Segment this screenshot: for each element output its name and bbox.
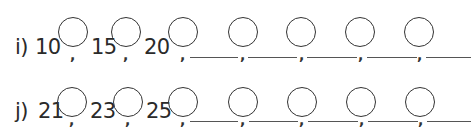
answer-circle[interactable] bbox=[58, 17, 88, 47]
row-label: j) bbox=[15, 101, 28, 122]
answer-blank[interactable] bbox=[249, 121, 298, 122]
comma: , bbox=[299, 113, 304, 127]
comma: , bbox=[358, 48, 363, 62]
sequence-row-i: i) 10 , 15 , 20 , , , , , bbox=[0, 0, 471, 64]
comma: , bbox=[69, 113, 74, 127]
given-number: 23 bbox=[90, 101, 116, 122]
comma: , bbox=[359, 113, 364, 127]
comma: , bbox=[418, 113, 423, 127]
answer-circle[interactable] bbox=[228, 17, 258, 47]
given-number: 20 bbox=[144, 37, 170, 58]
answer-circle[interactable] bbox=[111, 17, 141, 47]
comma: , bbox=[125, 113, 130, 127]
given-number: 10 bbox=[35, 37, 61, 58]
answer-blank[interactable] bbox=[427, 121, 471, 122]
row-label: i) bbox=[15, 37, 28, 58]
answer-circle[interactable] bbox=[168, 17, 198, 47]
answer-blank[interactable] bbox=[368, 121, 418, 122]
comma: , bbox=[180, 48, 185, 62]
comma: , bbox=[180, 113, 185, 127]
comma: , bbox=[240, 113, 245, 127]
comma: , bbox=[123, 48, 128, 62]
answer-blank[interactable] bbox=[308, 121, 358, 122]
answer-blank[interactable] bbox=[190, 121, 238, 122]
answer-blank[interactable] bbox=[248, 57, 297, 58]
answer-circle[interactable] bbox=[286, 17, 316, 47]
answer-circle[interactable] bbox=[345, 17, 375, 47]
comma: , bbox=[417, 48, 422, 62]
comma: , bbox=[70, 48, 75, 62]
answer-circle[interactable] bbox=[404, 17, 434, 47]
answer-blank[interactable] bbox=[307, 57, 357, 58]
answer-blank[interactable] bbox=[367, 57, 417, 58]
sequence-row-j: j) 21 , 23 , 25 , , , , , bbox=[0, 68, 471, 132]
answer-blank[interactable] bbox=[190, 57, 238, 58]
comma: , bbox=[240, 48, 245, 62]
answer-blank[interactable] bbox=[426, 57, 471, 58]
comma: , bbox=[299, 48, 304, 62]
